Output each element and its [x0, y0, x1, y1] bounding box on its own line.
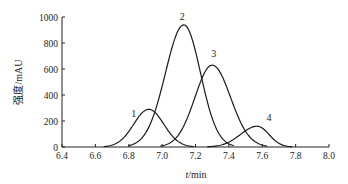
- y-tick-label: 1000: [39, 13, 58, 23]
- x-tick-label: 7.6: [256, 151, 268, 161]
- axes: [62, 17, 329, 147]
- peak-label: 4: [266, 112, 271, 123]
- y-tick-label: 600: [44, 65, 59, 75]
- x-tick-label: 6.6: [89, 151, 101, 161]
- peak-curves: [104, 25, 293, 147]
- x-axis-label: t/min: [185, 169, 206, 180]
- y-tick-label: 200: [44, 117, 59, 127]
- y-tick-label: 400: [44, 91, 59, 101]
- x-tick-label: 7.8: [290, 151, 302, 161]
- x-tick-label: 6.4: [56, 151, 68, 161]
- x-tick-label: 6.8: [123, 151, 135, 161]
- peak-3-curve: [160, 65, 267, 146]
- x-tick-label: 7.4: [223, 151, 235, 161]
- peak-labels: 1234: [131, 11, 271, 123]
- peak-2-curve: [129, 25, 234, 146]
- chromatogram-chart: 02004006008001000 6.46.66.87.07.27.47.67…: [0, 0, 348, 184]
- x-tick-label: 8.0: [323, 151, 335, 161]
- y-tick-label: 800: [44, 39, 59, 49]
- y-axis-label: 强度/mAU: [12, 59, 24, 105]
- peak-label: 3: [211, 48, 216, 59]
- y-axis-ticks: 02004006008001000: [39, 13, 65, 153]
- peak-label: 1: [131, 108, 136, 119]
- peak-label: 2: [180, 11, 185, 22]
- x-tick-label: 7.0: [156, 151, 168, 161]
- x-tick-label: 7.2: [190, 151, 202, 161]
